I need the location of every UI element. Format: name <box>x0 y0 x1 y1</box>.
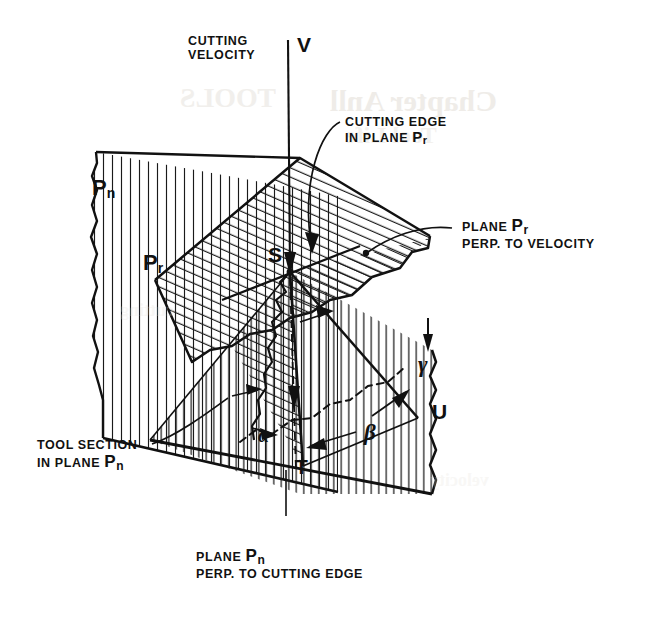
cutting-edge-callout-label: CUTTING EDGEIN PLANE Pr <box>345 115 447 147</box>
angle-gamma-label: γ <box>418 352 428 378</box>
tool-section-callout-label: TOOL SECTIONIN PLANE Pn <box>37 438 138 473</box>
plane-pr-callout-label: PLANE PrPERP. TO VELOCITY <box>462 216 595 251</box>
plane-pn-line1-prefix: PLANE <box>196 550 245 564</box>
point-u-label: U <box>432 400 447 424</box>
plane-pn-sub: n <box>257 553 264 567</box>
vertex-s-dot <box>287 269 294 276</box>
plane-pr-line1-prefix: PLANE <box>462 220 511 234</box>
pn-plane-tag: Pn <box>92 176 115 202</box>
angle-alpha-label: α <box>258 424 269 446</box>
pn-tag-sub: n <box>107 185 116 201</box>
point-s-label: S <box>268 243 282 267</box>
pr-tag-base: P <box>143 250 158 275</box>
point-t-label: T <box>295 455 308 479</box>
plane-pn-line2: PERP. TO CUTTING EDGE <box>196 567 363 581</box>
cutting-velocity-line1: CUTTING <box>188 34 248 48</box>
pr-plane-tag: Pr <box>143 251 163 277</box>
cutting-velocity-label: CUTTINGVELOCITY <box>188 34 255 62</box>
cutting-tool-geometry-diagram <box>0 0 649 623</box>
velocity-symbol-label: V <box>297 33 311 57</box>
plane-pn-base: P <box>245 546 257 565</box>
plane-pr-line2: PERP. TO VELOCITY <box>462 237 595 251</box>
tool-section-line1: TOOL SECTION <box>37 438 138 452</box>
tool-section-line2-prefix: IN PLANE <box>37 456 104 470</box>
pr-tag-sub: r <box>158 260 163 276</box>
cutting-edge-pr-sub: r <box>423 134 427 146</box>
tool-section-pn-sub: n <box>116 459 123 473</box>
plane-pr-base: P <box>511 216 523 235</box>
angle-beta-label: β <box>364 420 376 446</box>
pn-tag-base: P <box>92 175 107 200</box>
cutting-edge-line2-prefix: IN PLANE <box>345 131 412 145</box>
cutting-edge-pr-base: P <box>412 128 423 145</box>
plane-pr-sub: r <box>523 223 528 237</box>
leader-plane-pr-dot <box>363 250 369 256</box>
cutting-velocity-line2: VELOCITY <box>188 48 255 62</box>
plane-pn-caption-label: PLANE PnPERP. TO CUTTING EDGE <box>196 546 363 581</box>
tool-section-pn-base: P <box>104 452 116 471</box>
cutting-edge-line1: CUTTING EDGE <box>345 115 447 129</box>
